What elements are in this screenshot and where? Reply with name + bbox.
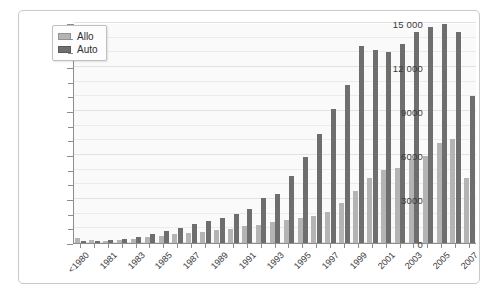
x-tick-mark xyxy=(191,244,192,248)
x-tick-mark xyxy=(302,244,303,248)
bar-group xyxy=(228,24,242,243)
x-tick-mark xyxy=(344,244,345,248)
bar-allo xyxy=(256,225,261,243)
y-tick-mark xyxy=(68,171,73,172)
bar-allo xyxy=(117,240,122,243)
x-tick-label: 2005 xyxy=(431,250,452,271)
y-tick-mark xyxy=(68,229,73,230)
bar-auto xyxy=(247,209,252,243)
x-tick-label: 1993 xyxy=(264,250,285,271)
x-tick-mark xyxy=(108,244,109,248)
bar-auto xyxy=(108,240,113,243)
y-tick-mark xyxy=(68,127,73,128)
x-tick-label: 2003 xyxy=(403,250,424,271)
bar-group xyxy=(200,24,214,243)
bar-allo xyxy=(450,139,455,243)
bar-auto xyxy=(220,218,225,243)
x-tick-mark xyxy=(247,244,248,248)
bar-auto xyxy=(456,32,461,243)
y-tick-mark xyxy=(68,39,73,40)
y-tick-label: 3000 xyxy=(401,195,423,206)
y-tick-mark xyxy=(67,200,73,201)
x-tick-label: 1981 xyxy=(98,250,119,271)
plot-area xyxy=(73,24,476,244)
legend-item-auto: Auto xyxy=(58,43,98,56)
y-tick-mark xyxy=(68,141,73,142)
bar-allo xyxy=(325,212,330,243)
y-tick-mark xyxy=(68,185,73,186)
x-tick-label: 1997 xyxy=(320,250,341,271)
bar-group xyxy=(256,24,270,243)
bar-group xyxy=(381,24,395,243)
x-tick-mark xyxy=(233,244,234,248)
bar-allo xyxy=(242,226,247,243)
bar-allo xyxy=(200,232,205,243)
x-axis: <198019811983198519871989199119931995199… xyxy=(73,244,476,288)
bar-group xyxy=(186,24,200,243)
bar-allo xyxy=(311,216,316,243)
bar-auto xyxy=(303,157,308,243)
bar-auto xyxy=(400,44,405,243)
x-tick-mark xyxy=(427,244,428,248)
bar-auto xyxy=(317,134,322,243)
bar-auto xyxy=(386,52,391,243)
legend-item-allo: Allo xyxy=(58,30,98,43)
x-tick-mark xyxy=(413,244,414,248)
x-tick-mark xyxy=(316,244,317,248)
x-tick-mark xyxy=(122,244,123,248)
bar-group xyxy=(298,24,312,243)
x-tick-label: 2007 xyxy=(459,250,480,271)
legend-label-allo: Allo xyxy=(77,31,94,42)
x-tick-label: 1991 xyxy=(237,250,258,271)
bar-auto xyxy=(178,228,183,243)
bar-allo xyxy=(159,236,164,243)
bar-auto xyxy=(289,176,294,243)
bar-auto xyxy=(192,224,197,243)
bar-allo xyxy=(103,241,108,243)
bar-allo xyxy=(172,234,177,243)
bar-allo xyxy=(381,170,386,243)
y-tick-mark xyxy=(67,156,73,157)
x-tick-label: 1983 xyxy=(125,250,146,271)
x-tick-mark xyxy=(163,244,164,248)
x-tick-mark xyxy=(441,244,442,248)
bar-group xyxy=(437,24,451,243)
bar-allo xyxy=(145,237,150,243)
bar-allo xyxy=(186,233,191,243)
x-tick-mark xyxy=(386,244,387,248)
y-tick-mark xyxy=(68,97,73,98)
bar-group xyxy=(325,24,339,243)
bar-allo xyxy=(75,238,80,243)
bar-auto xyxy=(234,214,239,243)
bar-allo xyxy=(367,178,372,243)
bar-auto xyxy=(122,239,127,243)
x-tick-label: 1995 xyxy=(292,250,313,271)
x-tick-mark xyxy=(261,244,262,248)
bar-group xyxy=(450,24,464,243)
y-tick-label: 0 xyxy=(418,239,423,250)
y-tick-mark xyxy=(68,215,73,216)
x-tick-mark xyxy=(372,244,373,248)
y-tick-label: 12 000 xyxy=(393,63,423,74)
bar-group xyxy=(172,24,186,243)
x-tick-label: 1999 xyxy=(348,250,369,271)
bar-group xyxy=(242,24,256,243)
bar-auto xyxy=(275,194,280,243)
bar-auto xyxy=(428,27,433,243)
bar-allo xyxy=(298,218,303,243)
bar-group xyxy=(214,24,228,243)
x-tick-label: 1985 xyxy=(153,250,174,271)
bar-allo xyxy=(214,230,219,243)
bar-auto xyxy=(373,50,378,243)
bar-auto xyxy=(345,85,350,243)
bar-allo xyxy=(228,229,233,243)
bar-group xyxy=(409,24,423,243)
x-tick-mark xyxy=(149,244,150,248)
x-tick-mark xyxy=(205,244,206,248)
bar-allo xyxy=(339,203,344,243)
x-tick-label: 1989 xyxy=(209,250,230,271)
chart-figure: <198019811983198519871989199119931995199… xyxy=(18,10,480,284)
bar-allo xyxy=(131,239,136,243)
bar-allo xyxy=(284,220,289,243)
bar-allo xyxy=(270,222,275,243)
